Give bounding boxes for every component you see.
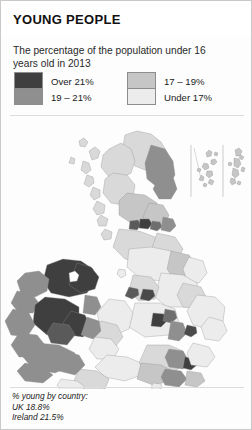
footer-heading: % young by country: [12,391,162,402]
footer-note: % young by country: UK 18.8% Ireland 21.… [12,391,162,423]
footer-divider [10,387,244,388]
legend: Over 21% 19 – 21% 17 – 19% Under 17% [1,71,251,113]
legend-swatch-under-17 [128,89,155,105]
chart-subtitle: The percentage of the population under 1… [13,45,228,70]
legend-label-over-21: Over 21% [51,76,94,87]
shetland-inset [223,145,245,197]
footer-uk-value: UK 18.8% [12,402,162,413]
header-bar: YOUNG PEOPLE [1,1,251,37]
region-ireland [5,259,101,383]
page-title: YOUNG PEOPLE [13,12,121,27]
choropleth-map [1,117,252,389]
legend-divider [10,115,244,116]
legend-label-17-19: 17 – 19% [164,76,205,87]
legend-label-under-17: Under 17% [164,92,212,103]
orkney-inset [191,145,218,197]
legend-swatch-stack-left [14,72,43,105]
legend-swatch-17-19 [128,73,155,89]
legend-swatch-stack-right [127,72,156,105]
legend-label-19-21: 19 – 21% [51,92,92,103]
map-svg [1,117,252,389]
legend-swatch-over-21 [15,73,42,89]
legend-swatch-19-21 [15,89,42,105]
footer-ireland-value: Ireland 21.5% [12,412,162,423]
region-scotland [69,131,183,263]
infographic-panel: YOUNG PEOPLE The percentage of the popul… [0,0,252,430]
